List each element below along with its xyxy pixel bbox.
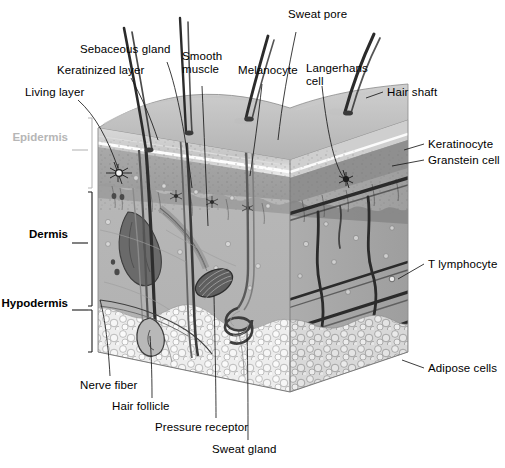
callout-sweat-gland: Sweat gland <box>212 443 276 456</box>
callout-living-layer: Living layer <box>25 86 84 99</box>
callout-adipose-cells: Adipose cells <box>428 362 497 375</box>
hypodermis-fat-side <box>290 315 408 392</box>
callout-granstein-cell: Granstein cell <box>428 154 500 167</box>
bracket-dermis <box>72 192 92 306</box>
bracket-hypodermis <box>72 310 92 352</box>
callout-sebaceous-gland: Sebaceous gland <box>80 43 170 56</box>
bracket-epidermis <box>72 118 92 188</box>
callout-melanocyte: Melanocyte <box>238 64 298 77</box>
callout-keratinized-layer: Keratinized layer <box>57 64 144 77</box>
callout-hair-follicle: Hair follicle <box>112 400 170 413</box>
callout-smooth-muscle: Smooth muscle <box>182 50 222 75</box>
skin-anatomy-figure: Epidermis Dermis Hypodermis Living layer… <box>0 0 505 468</box>
callout-sweat-pore: Sweat pore <box>288 8 347 21</box>
callout-keratinocyte: Keratinocyte <box>428 138 493 151</box>
t-lymphocyte-cell <box>389 276 395 282</box>
callout-hair-shaft: Hair shaft <box>387 86 437 99</box>
callout-t-lymphocyte: T lymphocyte <box>428 258 497 271</box>
callout-langerhans-cell: Langerhans cell <box>306 62 368 87</box>
layer-label-dermis: Dermis <box>0 228 68 241</box>
layer-label-hypodermis: Hypodermis <box>0 297 68 310</box>
layer-label-epidermis: Epidermis <box>0 131 68 144</box>
callout-nerve-fiber: Nerve fiber <box>80 379 137 392</box>
callout-pressure-receptor: Pressure receptor <box>155 421 248 434</box>
